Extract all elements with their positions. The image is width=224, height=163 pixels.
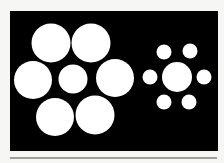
surround-circle bbox=[157, 95, 172, 110]
surround-circle bbox=[157, 45, 172, 60]
surround-circle bbox=[36, 98, 74, 136]
center-circle bbox=[162, 62, 192, 92]
surround-circle bbox=[72, 24, 111, 63]
surround-circle bbox=[182, 95, 197, 110]
surround-circle bbox=[76, 96, 115, 135]
surround-circle bbox=[14, 61, 52, 99]
ebbinghaus-figure bbox=[0, 0, 224, 163]
surround-circle bbox=[183, 44, 198, 59]
center-circle bbox=[59, 65, 88, 94]
surround-circle bbox=[143, 70, 158, 85]
surround-circle bbox=[32, 24, 71, 63]
surround-circle bbox=[197, 70, 212, 85]
surround-circle bbox=[96, 59, 134, 97]
